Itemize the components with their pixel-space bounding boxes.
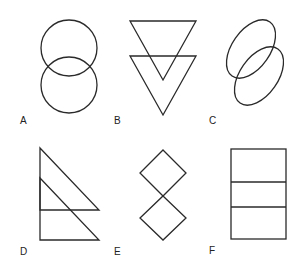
figure-c-ellipses bbox=[217, 11, 294, 114]
label-f: F bbox=[209, 246, 215, 256]
figure-d-triangles bbox=[40, 148, 99, 240]
label-d: D bbox=[20, 247, 27, 257]
label-e: E bbox=[114, 247, 121, 257]
figure-canvas bbox=[0, 0, 303, 273]
figure-a-circles bbox=[41, 20, 97, 113]
figure-e-diamonds bbox=[140, 150, 186, 240]
label-b: B bbox=[114, 116, 121, 126]
label-a: A bbox=[20, 116, 27, 126]
label-c: C bbox=[209, 116, 216, 126]
figure-f-rectangle bbox=[231, 149, 286, 239]
figure-b-triangles bbox=[130, 21, 196, 115]
